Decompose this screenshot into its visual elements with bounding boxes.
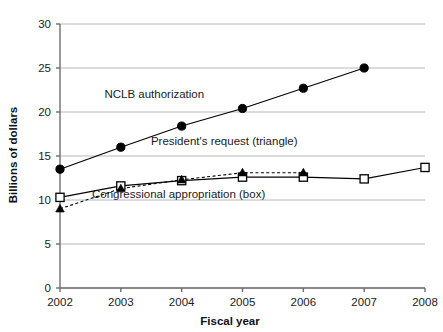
gridlines: [60, 24, 425, 288]
data-point-circle: [360, 64, 368, 72]
y-tick-label: 15: [38, 150, 51, 162]
x-tick-label: 2006: [291, 296, 317, 308]
x-axis-title: Fiscal year: [200, 315, 260, 327]
data-point-triangle: [238, 168, 247, 176]
x-tick-label: 2007: [351, 296, 377, 308]
line-chart: 051015202530 200220032004200520062007200…: [0, 0, 443, 332]
data-point-square: [421, 163, 429, 171]
y-axis-title: Billions of dollars: [7, 107, 19, 203]
x-tick-label: 2008: [412, 296, 438, 308]
data-point-triangle: [299, 168, 308, 176]
x-tick-label: 2005: [230, 296, 256, 308]
data-point-square: [56, 193, 64, 201]
y-tick-label: 0: [45, 282, 51, 294]
series-label: NCLB authorization: [104, 88, 204, 100]
y-tick-label: 5: [45, 238, 51, 250]
y-tick-label: 30: [38, 18, 51, 30]
x-tick-labels: 2002200320042005200620072008: [47, 296, 438, 308]
series-label: Congressional appropriation (box): [92, 188, 265, 200]
data-point-circle: [178, 122, 186, 130]
data-point-circle: [238, 104, 246, 112]
series-line: [60, 68, 364, 169]
data-point-circle: [117, 143, 125, 151]
x-tick-label: 2003: [108, 296, 134, 308]
data-point-circle: [56, 165, 64, 173]
y-tick-label: 10: [38, 194, 51, 206]
y-tick-label: 25: [38, 62, 51, 74]
data-point-triangle: [56, 204, 65, 212]
y-tick-label: 20: [38, 106, 51, 118]
x-tick-label: 2004: [169, 296, 195, 308]
series-label: President's request (triangle): [151, 135, 298, 147]
data-point-circle: [299, 84, 307, 92]
data-point-square: [360, 175, 368, 183]
x-tick-label: 2002: [47, 296, 73, 308]
y-tick-labels: 051015202530: [38, 18, 51, 294]
chart-container: 051015202530 200220032004200520062007200…: [0, 0, 443, 332]
